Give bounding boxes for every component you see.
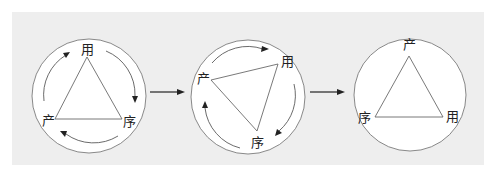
stage-1-label-bottom-left: 产	[42, 113, 55, 128]
triangle-rotation-diagram: 用 序 产 产 用 序	[0, 0, 496, 176]
stage-2-label-top-right: 用	[281, 54, 294, 69]
stage-3-circle	[354, 39, 466, 151]
stage-1-label-bottom-right: 序	[123, 114, 136, 129]
stage-1-label-top: 用	[81, 42, 94, 57]
stage-3-label-top: 产	[403, 37, 416, 52]
stage-2-label-left: 产	[197, 71, 210, 86]
stage-3-label-bottom-left: 序	[358, 110, 371, 125]
stage-3-label-bottom-right: 用	[446, 109, 459, 124]
stage-2: 产 用 序	[191, 40, 305, 154]
stage-1: 用 序 产	[32, 39, 146, 153]
stage-2-label-bottom: 序	[251, 135, 264, 150]
